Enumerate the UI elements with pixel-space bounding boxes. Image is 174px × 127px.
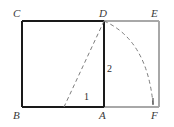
vertex-label-E: E (151, 8, 158, 19)
vertex-label-B: B (13, 110, 20, 121)
figure-canvas (0, 0, 174, 127)
vertex-label-A: A (99, 110, 106, 121)
geometry-figure: C D E B A F 1 2 (0, 0, 174, 127)
length-label-1: 1 (84, 92, 89, 102)
vertex-label-C: C (13, 8, 20, 19)
vertex-label-F: F (151, 110, 158, 121)
length-label-2: 2 (107, 64, 112, 74)
vertex-label-D: D (99, 8, 107, 19)
